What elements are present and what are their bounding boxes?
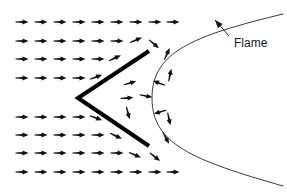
figure-background: [0, 0, 287, 196]
flame-label: Flame: [234, 36, 268, 50]
flame-holder-figure: Flame: [0, 0, 287, 196]
diagram-canvas: Flame: [0, 0, 287, 196]
